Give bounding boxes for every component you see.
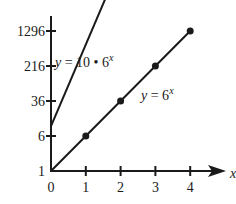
- label-s0-exp: x: [108, 52, 114, 63]
- label-s1-prefix: = 6: [147, 88, 169, 103]
- x-tick-label: 0: [48, 180, 55, 195]
- y-tick-label: 216: [24, 59, 45, 74]
- x-axis-label: x: [229, 166, 236, 181]
- label-s0-prefix: = 10 • 6: [61, 55, 109, 70]
- data-point: [187, 28, 194, 35]
- y-tick-label: 1296: [17, 24, 45, 39]
- x-tick-label: 4: [187, 180, 194, 195]
- series-label-6-pow-x: y = 6x: [139, 85, 174, 103]
- data-point: [82, 133, 89, 140]
- x-tick-label: 2: [117, 180, 124, 195]
- data-point: [152, 63, 159, 70]
- y-tick-label: 1: [38, 164, 45, 179]
- label-s1-exp: x: [168, 85, 174, 96]
- series-label-10-times-6-pow-x: y = 10 • 6x: [53, 52, 114, 70]
- x-tick-label: 1: [82, 180, 89, 195]
- y-tick-label: 36: [31, 94, 45, 109]
- y-tick-label: 6: [38, 129, 45, 144]
- x-tick-label: 3: [152, 180, 159, 195]
- chart: x 01234 16362161296 y = 10 • 6x y = 6x: [0, 0, 236, 204]
- data-point: [117, 98, 124, 105]
